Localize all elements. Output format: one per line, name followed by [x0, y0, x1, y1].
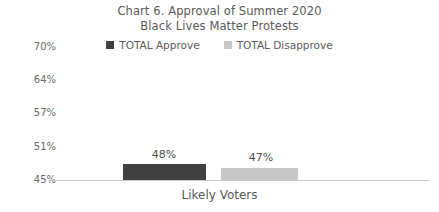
- y-axis-tick-label: 51%: [12, 141, 56, 152]
- x-axis-baseline: [48, 180, 430, 181]
- y-axis-tick-label: 45%: [12, 174, 56, 185]
- bar-value-label-total-disapprove: 47%: [249, 151, 273, 164]
- x-axis-label: Likely Voters: [0, 188, 439, 202]
- y-axis-tick-label: 64%: [12, 74, 56, 85]
- chart-container: Chart 6. Approval of Summer 2020 Black L…: [0, 0, 439, 212]
- bar-value-label-total-approve: 48%: [152, 148, 176, 161]
- plot-area: 70% 64% 57% 51% 45% 48% 47%: [0, 0, 439, 212]
- y-axis-tick-label: 57%: [12, 107, 56, 118]
- bar-total-disapprove[interactable]: [221, 168, 298, 180]
- y-axis-tick-label: 70%: [12, 41, 56, 52]
- bar-total-approve[interactable]: [123, 164, 206, 180]
